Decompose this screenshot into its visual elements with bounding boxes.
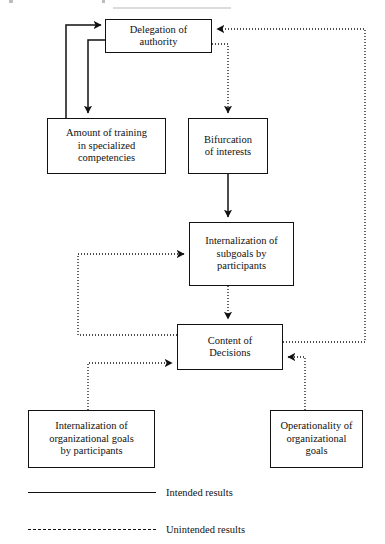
node-bifurcation-of-interests[interactable]: Bifurcationof interests bbox=[188, 118, 268, 174]
scan-artifact bbox=[9, 0, 13, 3]
node-label: Amount of trainingin specializedcompeten… bbox=[63, 127, 150, 164]
legend-item-unintended: Unintended results bbox=[28, 524, 245, 535]
edge-content-to-delegation bbox=[217, 29, 365, 342]
node-label: Delegation ofauthority bbox=[127, 24, 190, 49]
legend-dashed-line-swatch bbox=[28, 529, 156, 530]
node-delegation-of-authority[interactable]: Delegation ofauthority bbox=[105, 19, 212, 53]
legend-label: Unintended results bbox=[166, 524, 245, 535]
node-label: Internalization oforganizational goalsby… bbox=[46, 420, 137, 457]
edge-internalization-to-content bbox=[88, 363, 172, 410]
edge-delegation-to-bifurcation bbox=[212, 44, 228, 113]
edge-content-to-subgoals bbox=[78, 254, 184, 335]
scan-artifact bbox=[102, 0, 105, 3]
node-label: Internalization ofsubgoals byparticipant… bbox=[202, 235, 281, 272]
node-label: Operationality oforganizationalgoals bbox=[277, 420, 355, 457]
edge-training-to-delegation bbox=[66, 25, 101, 118]
node-internalization-of-subgoals[interactable]: Internalization ofsubgoals byparticipant… bbox=[189, 222, 294, 286]
legend-item-intended: Intended results bbox=[28, 487, 233, 498]
edge-delegation-to-training bbox=[88, 40, 105, 113]
node-operationality-of-organizational-goals[interactable]: Operationality oforganizationalgoals bbox=[270, 410, 363, 468]
scan-artifact bbox=[113, 7, 231, 9]
legend-solid-line-swatch bbox=[28, 492, 156, 493]
node-amount-of-training[interactable]: Amount of trainingin specializedcompeten… bbox=[47, 118, 166, 174]
node-label: Content ofDecisions bbox=[205, 335, 256, 360]
node-internalization-of-organizational-goals[interactable]: Internalization oforganizational goalsby… bbox=[28, 410, 155, 468]
edge-operationality-to-content bbox=[288, 357, 305, 410]
node-label: Bifurcationof interests bbox=[201, 134, 255, 159]
node-content-of-decisions[interactable]: Content ofDecisions bbox=[177, 324, 283, 370]
legend-label: Intended results bbox=[166, 487, 233, 498]
